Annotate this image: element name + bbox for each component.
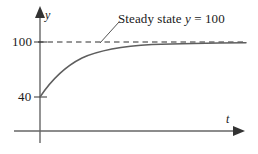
steady-state-annotation: Steady state y = 100 [118, 12, 225, 25]
y-axis-arrowhead [35, 6, 45, 18]
t-axis-label: t [226, 113, 229, 125]
y-tick-label-100: 100 [12, 35, 32, 48]
figure-container: 100 40 y t Steady state y = 100 [0, 0, 258, 154]
t-axis-arrowhead [233, 126, 245, 136]
annotation-prefix: Steady state [118, 11, 185, 26]
y-axis-label: y [45, 9, 50, 21]
y-tick-label-40: 40 [18, 90, 31, 103]
exponential-curve [40, 43, 246, 97]
annotation-leader-line [100, 22, 119, 43]
annotation-suffix: = 100 [191, 11, 225, 26]
